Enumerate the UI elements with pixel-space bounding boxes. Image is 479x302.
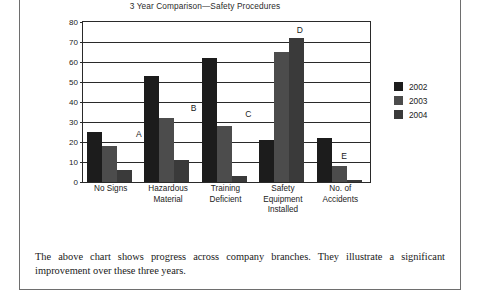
x-category-line: Accidents bbox=[306, 195, 375, 206]
chart-title: 3 Year Comparison—Safety Procedures bbox=[20, 1, 390, 11]
y-tick-label: 20 bbox=[69, 138, 78, 147]
legend-item-2002[interactable]: 2002 bbox=[394, 80, 458, 93]
bar-2003-0 bbox=[102, 146, 117, 182]
bar-annotation-D: D bbox=[297, 25, 303, 35]
y-tick-mark bbox=[80, 162, 83, 163]
y-tick-mark bbox=[80, 102, 83, 103]
screenshot-page: 3 Year Comparison—Safety Procedures 0102… bbox=[0, 0, 479, 302]
y-tick-mark bbox=[80, 122, 83, 123]
bar-annotation-A: A bbox=[136, 129, 142, 139]
y-tick-label: 70 bbox=[69, 38, 78, 47]
y-tick-mark bbox=[80, 62, 83, 63]
bar-2004-0 bbox=[117, 170, 132, 182]
y-tick-mark bbox=[80, 82, 83, 83]
bar-2003-1 bbox=[159, 118, 174, 182]
legend-swatch-icon bbox=[394, 82, 403, 91]
figure-caption: The above chart shows progress across co… bbox=[35, 250, 445, 278]
y-gridline bbox=[83, 102, 370, 103]
y-tick-mark bbox=[80, 42, 83, 43]
legend-label: 2002 bbox=[409, 82, 427, 92]
bar-2002-2 bbox=[202, 58, 217, 182]
y-tick-label: 40 bbox=[69, 98, 78, 107]
x-category-label-4: No. ofAccidents bbox=[306, 184, 375, 205]
bar-2002-4 bbox=[317, 138, 332, 182]
legend-item-2004[interactable]: 2004 bbox=[394, 108, 458, 121]
x-category-line: Installed bbox=[248, 205, 317, 216]
legend-swatch-icon bbox=[394, 110, 403, 119]
legend-item-2003[interactable]: 2003 bbox=[394, 94, 458, 107]
y-tick-label: 60 bbox=[69, 58, 78, 67]
bar-2002-1 bbox=[144, 76, 159, 182]
bar-annotation-B: B bbox=[191, 103, 197, 113]
bar-2003-3 bbox=[274, 52, 289, 182]
chart-plot-area: 01020304050607080ABCDE bbox=[82, 21, 371, 183]
bar-annotation-C: C bbox=[245, 109, 251, 119]
bar-2003-4 bbox=[332, 166, 347, 182]
y-tick-label: 80 bbox=[69, 18, 78, 27]
y-gridline bbox=[83, 122, 370, 123]
bar-2004-3 bbox=[289, 38, 304, 182]
bar-2002-0 bbox=[87, 132, 102, 182]
y-tick-mark bbox=[80, 22, 83, 23]
bar-2002-3 bbox=[259, 140, 274, 182]
y-tick-label: 50 bbox=[69, 78, 78, 87]
y-tick-mark bbox=[80, 182, 83, 183]
legend-label: 2004 bbox=[409, 110, 427, 120]
y-tick-label: 30 bbox=[69, 118, 78, 127]
y-tick-label: 10 bbox=[69, 158, 78, 167]
bar-2004-2 bbox=[232, 176, 247, 182]
y-gridline bbox=[83, 42, 370, 43]
y-tick-mark bbox=[80, 142, 83, 143]
chart-legend: 200220032004 bbox=[394, 80, 458, 122]
bar-2004-1 bbox=[174, 160, 189, 182]
x-category-line: No. of bbox=[306, 184, 375, 195]
legend-label: 2003 bbox=[409, 96, 427, 106]
bar-annotation-E: E bbox=[341, 151, 347, 161]
y-gridline bbox=[83, 82, 370, 83]
chart-figure: 3 Year Comparison—Safety Procedures 0102… bbox=[20, 0, 460, 232]
y-gridline bbox=[83, 62, 370, 63]
bar-2003-2 bbox=[217, 126, 232, 182]
bar-2004-4 bbox=[347, 180, 362, 182]
legend-swatch-icon bbox=[394, 96, 403, 105]
